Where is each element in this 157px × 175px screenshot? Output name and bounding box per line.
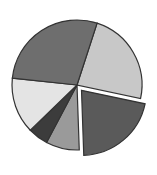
pie-slice-2	[82, 90, 146, 155]
pie-chart	[0, 0, 157, 175]
pie-chart-canvas	[0, 0, 157, 175]
